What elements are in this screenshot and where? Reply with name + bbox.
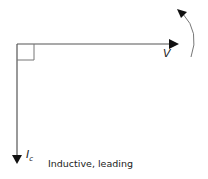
voltage-label: V (163, 47, 171, 60)
current-arrowhead-icon (12, 155, 22, 164)
current-label-subscript: c (29, 155, 33, 163)
current-label: Ic (26, 148, 33, 163)
right-angle-marker (17, 44, 34, 60)
diagram-caption: Inductive, leading (48, 158, 133, 169)
rotation-arc (183, 14, 194, 57)
